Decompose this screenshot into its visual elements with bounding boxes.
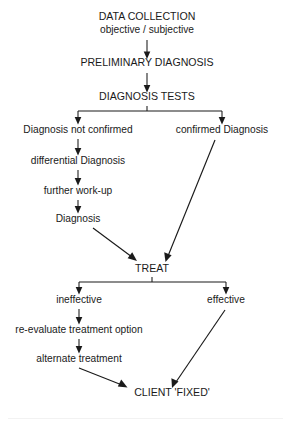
edge-effective-to-client — [171, 310, 225, 388]
node-diagnosis: Diagnosis — [56, 213, 101, 224]
node-re-evaluate-treatment-option: re-evaluate treatment option — [15, 324, 142, 335]
label-layer: DATA COLLECTION objective / subjective P… — [15, 10, 268, 398]
edge-differential-to-workup — [75, 170, 82, 186]
node-differential-diagnosis: differential Diagnosis — [31, 155, 125, 166]
arrow-head-icon — [164, 252, 171, 262]
edge-tests-split — [75, 106, 226, 125]
edge-reevaluate-to-alternate — [76, 339, 83, 354]
edge-workup-to-diagnosis — [75, 200, 82, 214]
node-treat: TREAT — [135, 262, 169, 274]
node-confirmed-diagnosis: confirmed Diagnosis — [176, 124, 268, 135]
edge-alternate-to-client — [79, 368, 128, 388]
node-diagnosis-tests: DIAGNOSIS TESTS — [99, 90, 195, 102]
edge-notconfirmed-to-differential — [75, 139, 82, 156]
node-alternate-treatment: alternate treatment — [36, 353, 122, 364]
node-preliminary-diagnosis: PRELIMINARY DIAGNOSIS — [80, 56, 213, 68]
edge-confirmed-to-treat — [164, 140, 215, 262]
node-data-collection: DATA COLLECTION — [99, 10, 196, 22]
node-objective-subjective: objective / subjective — [100, 24, 194, 35]
edge-ineffective-to-reevaluate — [76, 309, 83, 325]
node-ineffective: ineffective — [56, 294, 102, 305]
node-client-fixed: CLIENT 'FIXED' — [134, 386, 210, 398]
node-further-work-up: further work-up — [44, 185, 113, 196]
flowchart-canvas: DATA COLLECTION objective / subjective P… — [0, 0, 291, 429]
arrow-head-icon — [128, 252, 137, 261]
node-effective: effective — [207, 294, 245, 305]
flowchart-diagram: DATA COLLECTION objective / subjective P… — [0, 0, 291, 429]
node-diagnosis-not-confirmed: Diagnosis not confirmed — [23, 124, 133, 135]
edge-treat-split — [76, 277, 230, 295]
edge-diagnosis-to-treat — [93, 228, 137, 261]
